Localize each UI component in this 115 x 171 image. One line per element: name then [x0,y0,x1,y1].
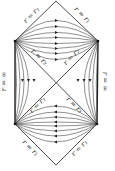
label-right-vertical: r = ∞ [101,72,108,92]
label-left-vertical: r = ∞ [1,72,8,92]
side-flow-arrows [21,79,92,82]
left-side-flow-curves [15,41,29,124]
upper-flow-arrows [55,19,58,61]
penrose-diagram [0,0,115,171]
lower-flow-arrows [54,105,57,144]
right-side-flow-curves [84,41,98,124]
